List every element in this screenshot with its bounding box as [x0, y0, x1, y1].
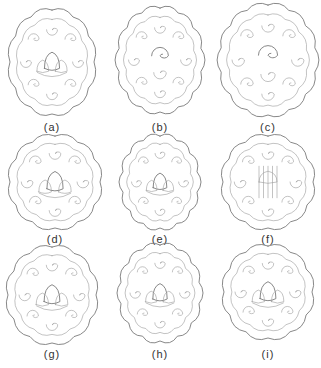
ornament-i-icon: [0, 0, 321, 368]
panel-label-i: (i): [248, 348, 288, 360]
